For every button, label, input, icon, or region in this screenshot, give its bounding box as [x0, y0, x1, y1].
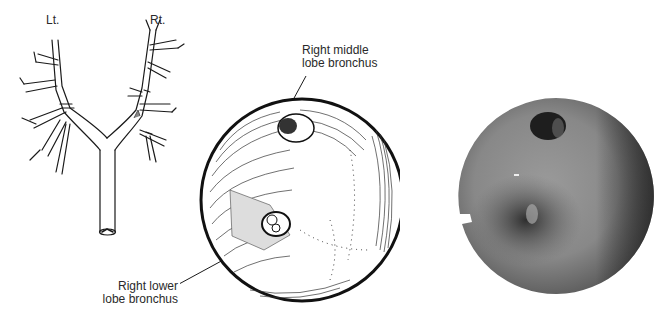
- endoscopic-drawing: Right middle lobe bronchus: [180, 0, 400, 322]
- annotation-right-lower-lobe: Right lower lobe bronchus: [70, 280, 178, 306]
- bronchoscopic-view-drawing-icon: [180, 0, 400, 322]
- bronchial-tree-icon: [0, 0, 200, 250]
- bronchial-tree-diagram: Lt. Rt.: [0, 0, 200, 250]
- endoscopic-photograph: [456, 96, 656, 296]
- bronchoscopic-photo-icon: [456, 96, 656, 296]
